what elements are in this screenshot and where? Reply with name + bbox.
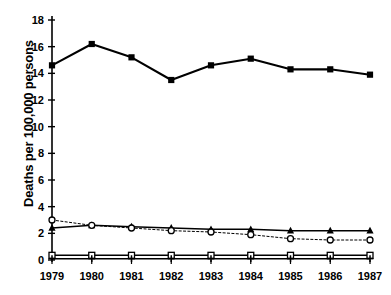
data-point-filled-square (128, 54, 134, 60)
y-tick-label: 12 (22, 94, 44, 106)
x-tick-label: 1982 (149, 270, 193, 282)
data-point-open-circle (248, 232, 254, 238)
data-point-filled-square (367, 72, 373, 78)
data-point-open-circle (49, 217, 55, 223)
data-point-open-circle (327, 237, 333, 243)
y-tick-label: 14 (22, 67, 44, 79)
y-tick-label: 0 (22, 254, 44, 266)
y-tick-label: 10 (22, 121, 44, 133)
data-point-filled-square (248, 56, 254, 62)
y-tick-label: 8 (22, 147, 44, 159)
chart-plot-area (0, 0, 391, 295)
data-point-open-circle (208, 229, 214, 235)
data-point-open-circle (168, 228, 174, 234)
data-point-filled-square (89, 41, 95, 47)
data-point-filled-square (327, 66, 333, 72)
data-point-filled-square (168, 77, 174, 83)
y-tick-label: 2 (22, 227, 44, 239)
x-tick-label: 1984 (229, 270, 273, 282)
data-point-open-circle (367, 237, 373, 243)
x-tick-label: 1981 (110, 270, 154, 282)
x-tick-label: 1987 (348, 270, 391, 282)
data-point-open-circle (129, 225, 135, 231)
y-tick-label: 16 (22, 41, 44, 53)
data-point-filled-square (208, 62, 214, 68)
y-tick-label: 6 (22, 174, 44, 186)
x-tick-label: 1980 (70, 270, 114, 282)
x-tick-label: 1985 (269, 270, 313, 282)
series-layer (48, 41, 373, 262)
tick-marks (48, 20, 370, 264)
series-filled-square (49, 41, 373, 83)
data-point-open-circle (89, 222, 95, 228)
x-tick-label: 1986 (308, 270, 352, 282)
data-point-filled-square (49, 62, 55, 68)
y-tick-label: 4 (22, 201, 44, 213)
data-point-open-circle (288, 236, 294, 242)
x-tick-label: 1983 (189, 270, 233, 282)
x-tick-label: 1979 (30, 270, 74, 282)
data-point-filled-square (287, 66, 293, 72)
chart-container: Deaths per 100,000 persons 0246810121416… (0, 0, 391, 295)
y-tick-label: 18 (22, 14, 44, 26)
